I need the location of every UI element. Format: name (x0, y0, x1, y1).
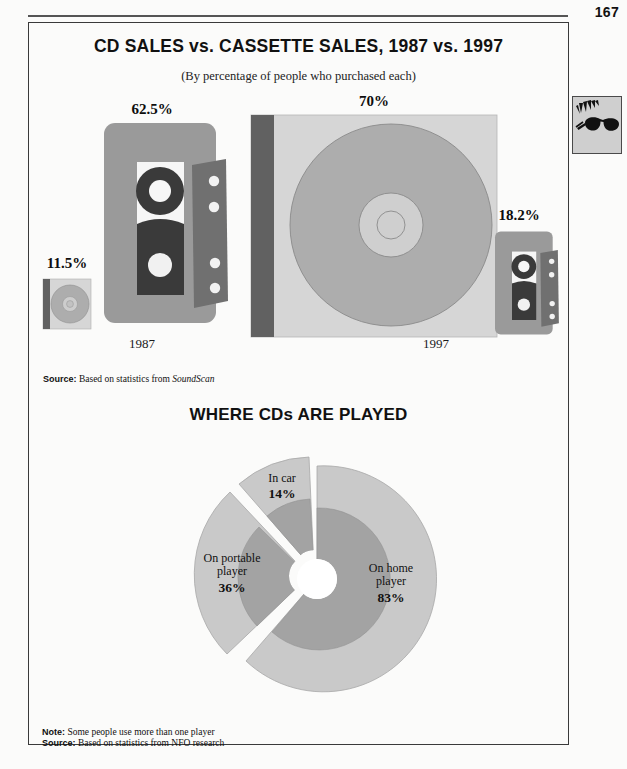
pie-value-on-home-player: 83% (336, 590, 446, 605)
pie-label-on-home-player-line2: player (376, 574, 406, 588)
bar-chart-source-text: Based on statistics from (79, 374, 172, 384)
pie-chart-source: Source: Based on statistics from NFO res… (42, 738, 224, 748)
pie-label-in-car: In car 14% (232, 472, 332, 502)
bar-chart-source-italic: SoundScan (172, 374, 214, 384)
thumb-tab (572, 96, 622, 154)
bar-chart-source: Source: Based on statistics from SoundSc… (43, 374, 215, 384)
pie-label-on-portable-player: On portable player 36% (172, 552, 292, 595)
pie-chart-title: WHERE CDs ARE PLAYED (29, 405, 568, 425)
pie-value-on-portable-player: 36% (172, 580, 292, 595)
bar-chart-source-label: Source: (43, 374, 77, 384)
pie-chart-source-label: Source: (42, 738, 76, 748)
sunglasses-icon (573, 97, 621, 153)
cd-1997-percent-label: 70% (334, 93, 414, 110)
pie-label-on-home-player-line1: On home (369, 561, 413, 575)
cassette-1997-icon (495, 231, 563, 335)
cassette-1987-percent-label: 62.5% (87, 101, 217, 118)
pie-label-in-car-text: In car (268, 471, 296, 485)
pie-chart-note-label: Note: (42, 727, 65, 737)
year-label-1987: 1987 (87, 336, 197, 352)
pie-label-on-home-player: On home player 83% (336, 562, 446, 605)
pie-label-on-portable-player-line2: player (217, 564, 247, 578)
page-number: 167 (595, 4, 619, 20)
cd-1987-percent-label: 11.5% (27, 255, 107, 272)
pie-label-on-portable-player-line1: On portable (204, 551, 261, 565)
pie-chart-note: Note: Some people use more than one play… (42, 727, 215, 737)
pie-chart-note-text: Some people use more than one player (67, 727, 214, 737)
pie-chart-source-text: Based on statistics from NFO research (78, 738, 224, 748)
page-header-rule (28, 15, 568, 17)
bar-chart-title: CD SALES vs. CASSETTE SALES, 1987 vs. 19… (29, 36, 568, 57)
cd-case-1997-icon (251, 115, 497, 337)
pie-center-hub (297, 559, 337, 599)
pie-value-in-car: 14% (232, 486, 332, 501)
bar-chart-subtitle: (By percentage of people who purchased e… (29, 69, 568, 84)
cassette-1987-icon (104, 123, 236, 323)
year-label-1997: 1997 (381, 336, 491, 352)
cassette-1997-percent-label: 18.2% (474, 207, 564, 224)
cd-case-1987-icon (43, 279, 91, 329)
pie-chart: In car 14% On portable player 36% On hom… (186, 448, 448, 710)
